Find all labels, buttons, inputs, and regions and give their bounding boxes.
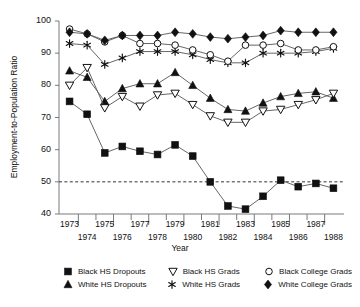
y-tick-label: 80 <box>25 79 51 89</box>
legend-item[interactable]: Black College Grads <box>263 266 352 277</box>
y-tick-label: 60 <box>25 144 51 154</box>
x-tick-label: 1973 <box>53 219 87 229</box>
y-tick-label: 50 <box>25 176 51 186</box>
legend-label: Black HS Dropouts <box>78 267 146 276</box>
y-axis-title: Employment-to-Population Ratio <box>9 17 19 217</box>
x-tick-label: 1975 <box>88 219 122 229</box>
x-tick-label: 1982 <box>211 232 245 242</box>
legend-row: White HS DropoutsWhite HS GradsWhite Col… <box>62 279 352 292</box>
x-tick-label: 1979 <box>158 219 192 229</box>
series-black-hs-dropouts <box>66 98 337 213</box>
legend-item[interactable]: White HS Dropouts <box>62 279 166 290</box>
y-tick-label: 100 <box>25 15 51 25</box>
legend-row: Black HS DropoutsBlack HS GradsBlack Col… <box>62 266 352 279</box>
legend-label: White HS Grads <box>182 280 240 289</box>
filled-square-icon <box>62 266 74 277</box>
legend-marker <box>62 279 74 290</box>
legend-label: Black HS Grads <box>183 267 240 276</box>
open-circle-icon <box>263 266 275 277</box>
asterisk-icon <box>166 279 178 290</box>
x-tick-label: 1974 <box>70 232 104 242</box>
legend-marker <box>62 266 74 277</box>
filled-triangle-up-icon <box>62 279 74 290</box>
x-tick-label: 1977 <box>123 219 157 229</box>
x-tick-label: 1987 <box>299 219 333 229</box>
x-tick-label: 1983 <box>228 219 262 229</box>
legend-item[interactable]: White College Grads <box>262 279 352 290</box>
x-tick-label: 1984 <box>246 232 280 242</box>
x-tick-label: 1978 <box>141 232 175 242</box>
y-tick-label: 40 <box>25 208 51 218</box>
legend-label: White HS Dropouts <box>78 280 146 289</box>
legend-item[interactable]: Black HS Dropouts <box>62 266 167 277</box>
x-tick-label: 1985 <box>264 219 298 229</box>
legend-item[interactable]: White HS Grads <box>166 279 262 290</box>
legend-marker <box>167 266 179 277</box>
legend-marker <box>262 279 274 290</box>
y-tick-label: 70 <box>25 112 51 122</box>
chart-legend: Black HS DropoutsBlack HS GradsBlack Col… <box>62 266 352 292</box>
open-triangle-down-icon <box>167 266 179 277</box>
x-tick-label: 1980 <box>176 232 210 242</box>
legend-marker <box>166 279 178 290</box>
x-axis-title: Year <box>0 243 360 253</box>
y-tick-label: 90 <box>25 47 51 57</box>
x-tick-label: 1981 <box>193 219 227 229</box>
legend-marker <box>263 266 275 277</box>
chart-figure: Employment-to-Population Ratio Year 1009… <box>0 0 360 307</box>
legend-item[interactable]: Black HS Grads <box>167 266 263 277</box>
x-tick-label: 1986 <box>281 232 315 242</box>
filled-diamond-icon <box>262 279 274 290</box>
x-tick-label: 1988 <box>316 232 350 242</box>
series-white-college-grads <box>66 26 337 44</box>
x-tick-label: 1976 <box>105 232 139 242</box>
legend-label: White College Grads <box>278 280 352 289</box>
plot-area <box>0 0 360 307</box>
legend-label: Black College Grads <box>279 267 352 276</box>
